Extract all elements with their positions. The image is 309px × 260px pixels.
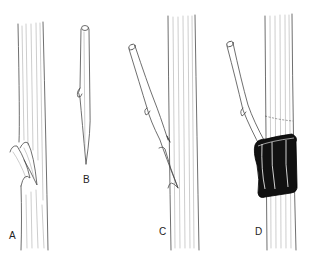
panel-d-wrapped — [226, 14, 297, 250]
panel-label-c: C — [159, 227, 166, 237]
panel-c-graft — [128, 15, 199, 250]
panel-label-b: B — [83, 175, 90, 185]
panel-label-d: D — [255, 227, 262, 237]
panel-a-stock — [10, 22, 48, 250]
panel-b-scion — [77, 26, 90, 165]
grafting-diagram: A B C D — [0, 0, 309, 260]
panel-label-a: A — [9, 231, 16, 241]
